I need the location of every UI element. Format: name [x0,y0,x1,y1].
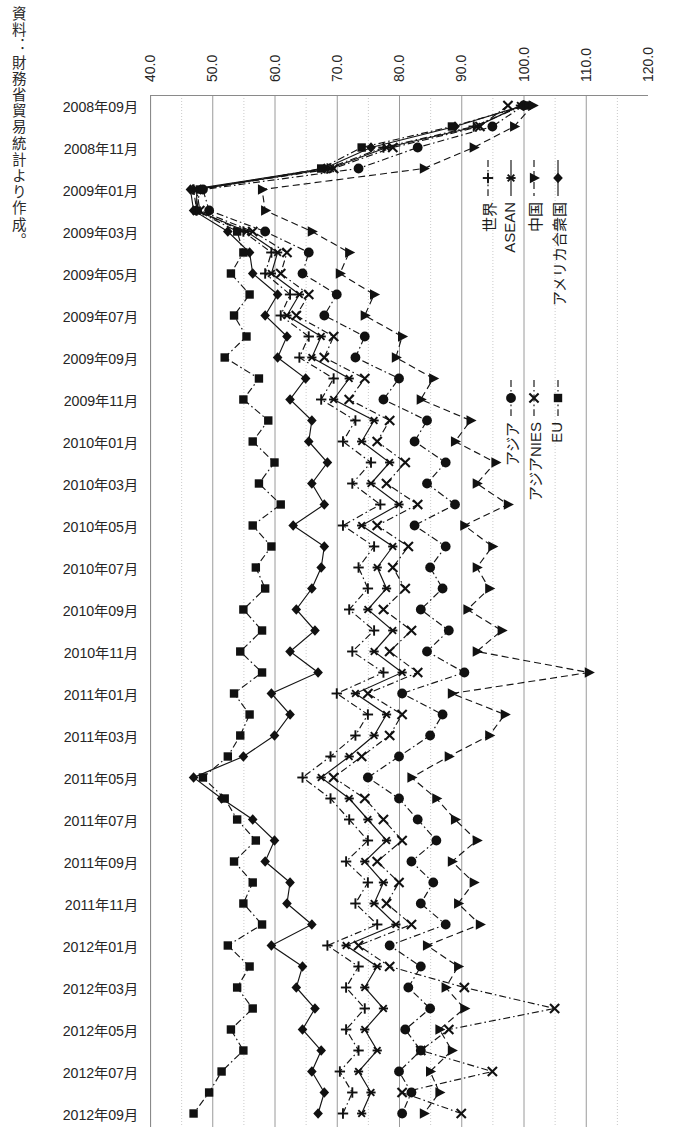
legend-label: 中国 [524,202,545,232]
chart-legend: アメリカ合衆国EU中国アジアNIESASEANアジア世界 [0,0,673,1127]
marker-asterisk [506,175,515,182]
chart-page: 資料：財務省貿易統計より作成。 40.050.060.070.080.090.0… [0,0,673,1127]
legend-label: アメリカ合衆国 [548,202,569,306]
legend-label: EU [548,422,565,443]
legend-label: 世界 [478,202,499,232]
legend-label: アジア [501,422,522,466]
marker-triangle [530,173,540,183]
legend-label: アジアNIES [524,422,545,501]
marker-cross [529,393,538,402]
marker-square [554,394,562,402]
marker-circle [506,393,516,403]
marker-plus [483,173,493,183]
marker-diamond [553,173,563,183]
legend-label: ASEAN [501,202,518,253]
legend-canvas [0,0,673,1127]
